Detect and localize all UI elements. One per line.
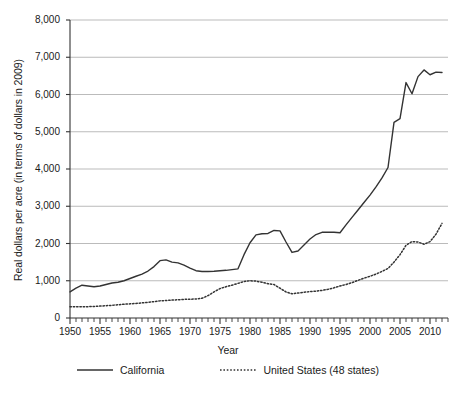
x-tick-label: 1955 (85, 327, 115, 337)
x-tick-label: 1965 (145, 327, 175, 337)
gridlines (70, 20, 448, 281)
x-axis-ticks (70, 318, 448, 324)
x-tick-label: 1960 (115, 327, 145, 337)
y-tick-label: 2,000 (18, 239, 60, 249)
y-tick-label: 6,000 (18, 90, 60, 100)
x-tick-label: 1980 (235, 327, 265, 337)
legend-swatch-solid-line (77, 365, 113, 375)
y-axis-ticks (66, 20, 70, 318)
x-tick-label: 1985 (265, 327, 295, 337)
legend-swatch-dotted-line (220, 365, 256, 375)
legend-label-united-states: United States (48 states) (263, 364, 379, 376)
y-tick-label: 5,000 (18, 127, 60, 137)
legend-label-california: California (120, 364, 164, 376)
x-tick-label: 1995 (325, 327, 355, 337)
legend-item-united-states: United States (48 states) (220, 364, 379, 376)
series-line-california (70, 70, 442, 292)
x-tick-label: 1950 (55, 327, 85, 337)
chart-container: Real dollars per acre (in terms of dolla… (0, 0, 456, 396)
y-tick-label: 3,000 (18, 201, 60, 211)
y-tick-label: 7,000 (18, 52, 60, 62)
data-series-group (70, 70, 442, 307)
x-tick-label: 1975 (205, 327, 235, 337)
x-tick-label: 1970 (175, 327, 205, 337)
x-axis-label: Year (0, 344, 456, 356)
y-tick-label: 8,000 (18, 15, 60, 25)
x-tick-label: 2005 (385, 327, 415, 337)
y-tick-label: 1,000 (18, 276, 60, 286)
x-tick-label: 2000 (355, 327, 385, 337)
y-tick-label: 4,000 (18, 164, 60, 174)
chart-legend: California United States (48 states) (0, 364, 456, 376)
legend-item-california: California (77, 364, 164, 376)
y-tick-label: 0 (18, 313, 60, 323)
x-tick-label: 1990 (295, 327, 325, 337)
x-tick-label: 2010 (415, 327, 445, 337)
